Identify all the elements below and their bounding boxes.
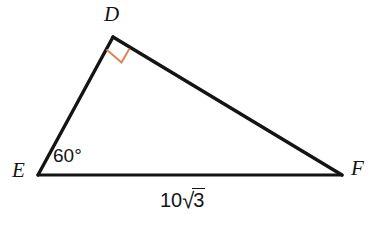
vertex-label-d: D [104, 4, 119, 25]
side-length-coefficient: 10 [160, 189, 182, 211]
side-length-label-ef: 10√3 [160, 188, 205, 212]
vertex-label-e: E [12, 160, 25, 181]
angle-measure-label-e: 60° [53, 146, 82, 165]
square-root-expression: √3 [182, 188, 205, 212]
radicand-value: 3 [192, 188, 205, 210]
vertex-label-f: F [351, 158, 364, 179]
geometry-figure: D E F 60° 10√3 [0, 0, 383, 227]
